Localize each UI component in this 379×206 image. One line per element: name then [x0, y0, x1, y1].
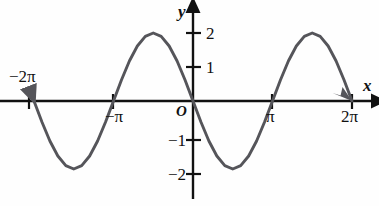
x-tick-label-2pi: 2π [341, 108, 358, 125]
x-axis-label: x [363, 77, 372, 94]
y-tick-label--2: −2 [168, 166, 186, 183]
graph-figure: y x O −2π −π π 2π 2 1 −1 −2 [0, 0, 379, 206]
y-axis-label: y [178, 3, 186, 20]
y-tick-label--1: −1 [168, 132, 186, 149]
origin-label: O [176, 104, 187, 119]
y-tick-label-2: 2 [206, 25, 215, 42]
x-tick-label--pi: −π [105, 108, 123, 125]
plot-canvas [0, 0, 379, 206]
x-tick-label--2pi: −2π [9, 68, 36, 85]
x-tick-label-pi: π [266, 108, 275, 125]
y-tick-label-1: 1 [206, 59, 215, 76]
